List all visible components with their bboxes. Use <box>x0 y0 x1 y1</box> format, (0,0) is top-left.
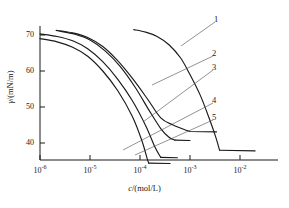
y-axis-ticks <box>40 35 45 143</box>
curve-2-plateau <box>188 131 217 132</box>
curve-label-5: 5 <box>212 112 216 122</box>
label-leader-lines <box>123 22 215 155</box>
surface-tension-chart: 70 60 50 40 10-6 10-5 10-4 10-3 10-2 1 2… <box>0 0 289 208</box>
x-axis-title: c/(mol/L) <box>0 183 289 193</box>
x-tick-mantissa: 10 <box>134 166 142 175</box>
x-tick-label-1e-4: 10-4 <box>123 164 157 175</box>
x-tick-exponent: -3 <box>192 164 197 170</box>
x-tick-mantissa: 10 <box>34 166 42 175</box>
x-tick-mantissa: 10 <box>234 166 242 175</box>
y-tick-label-60: 60 <box>14 66 34 75</box>
data-curves <box>40 30 255 164</box>
axis-lines <box>40 26 278 160</box>
curve-label-4: 4 <box>212 95 216 105</box>
curve-3 <box>59 31 175 140</box>
y-tick-label-70: 70 <box>14 30 34 39</box>
x-tick-label-1e-2: 10-2 <box>223 164 257 175</box>
plot-area <box>0 0 289 208</box>
y-tick-label-50: 50 <box>14 102 34 111</box>
x-tick-label-1e-3: 10-3 <box>173 164 207 175</box>
x-tick-exponent: -4 <box>142 164 147 170</box>
curve-2 <box>56 30 188 130</box>
x-tick-mantissa: 10 <box>184 166 192 175</box>
x-axis-ticks <box>40 155 240 160</box>
x-tick-exponent: -5 <box>92 164 97 170</box>
curve-4 <box>40 34 161 157</box>
x-tick-exponent: -2 <box>242 164 247 170</box>
x-tick-label-1e-5: 10-5 <box>73 164 107 175</box>
curve-label-1: 1 <box>214 14 218 24</box>
curve-1-plateau <box>220 150 256 151</box>
curve-label-3: 3 <box>212 62 216 72</box>
leader-line-3 <box>143 70 213 122</box>
y-axis-symbol: γ <box>5 100 15 103</box>
y-tick-label-40: 40 <box>14 138 34 147</box>
leader-line-1 <box>181 22 215 46</box>
x-tick-exponent: -6 <box>42 164 47 170</box>
curve-label-2: 2 <box>212 48 216 58</box>
y-axis-unit: /(mN/m) <box>5 70 15 100</box>
x-axis-unit: /(mol/L) <box>132 183 161 193</box>
y-axis-title: γ/(mN/m) <box>5 49 15 125</box>
x-tick-mantissa: 10 <box>84 166 92 175</box>
x-tick-label-1e-6: 10-6 <box>23 164 57 175</box>
